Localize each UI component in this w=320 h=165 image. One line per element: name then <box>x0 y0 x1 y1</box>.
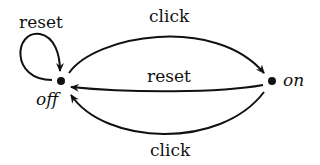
edge-on-off-click <box>71 92 264 134</box>
state-on-label: on <box>283 72 304 89</box>
state-off-node <box>57 77 65 85</box>
edge-off-off-reset <box>20 34 60 80</box>
state-off-label: off <box>36 91 58 108</box>
state-on-node <box>268 77 276 85</box>
label-off-on-click: click <box>149 8 189 25</box>
label-off-self-reset: reset <box>19 14 63 31</box>
label-on-off-reset: reset <box>147 68 191 85</box>
label-on-off-click: click <box>150 142 190 159</box>
